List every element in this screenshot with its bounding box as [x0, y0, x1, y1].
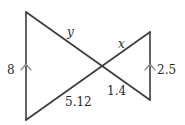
label-left-side: 8 [7, 63, 15, 77]
diagonal-top-left-to-bottom-right [26, 12, 150, 100]
label-right-side: 2.5 [157, 63, 176, 77]
label-lower-right-segment: 1.4 [107, 84, 126, 98]
label-x: x [118, 37, 125, 51]
label-lower-left-segment: 5.12 [65, 95, 92, 109]
bowtie-diagram: 8 y x 5.12 1.4 2.5 [0, 0, 185, 125]
label-y: y [66, 25, 74, 39]
